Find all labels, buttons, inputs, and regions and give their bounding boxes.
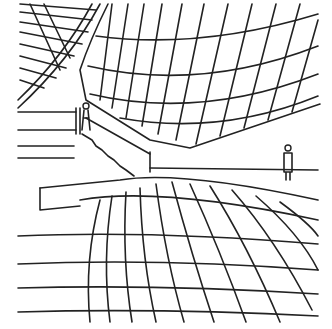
fan-ribs [18, 4, 100, 108]
figure-left [82, 103, 90, 130]
seating-tiers [18, 178, 318, 323]
architectural-sketch [0, 0, 332, 329]
figure-right [150, 145, 318, 180]
ceiling-canopy [80, 4, 320, 148]
